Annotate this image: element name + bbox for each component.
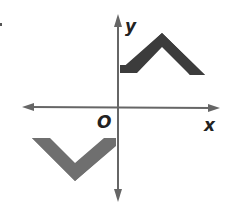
x-axis bbox=[22, 103, 220, 112]
lower-chevron-body bbox=[32, 138, 116, 181]
x-axis-left-arrow-icon bbox=[22, 103, 34, 111]
diagram-canvas: y O x bbox=[0, 0, 241, 209]
origin-label: O bbox=[97, 112, 111, 132]
y-axis-up-arrow-icon bbox=[114, 14, 122, 27]
coordinate-diagram: y O x bbox=[0, 0, 241, 209]
y-axis-label: y bbox=[125, 16, 137, 36]
x-axis-right-arrow-icon bbox=[208, 104, 220, 112]
x-axis-label: x bbox=[203, 115, 216, 135]
dot-mark bbox=[0, 23, 2, 26]
upper-chevron-body bbox=[120, 33, 205, 75]
y-axis-down-arrow-icon bbox=[114, 189, 122, 202]
